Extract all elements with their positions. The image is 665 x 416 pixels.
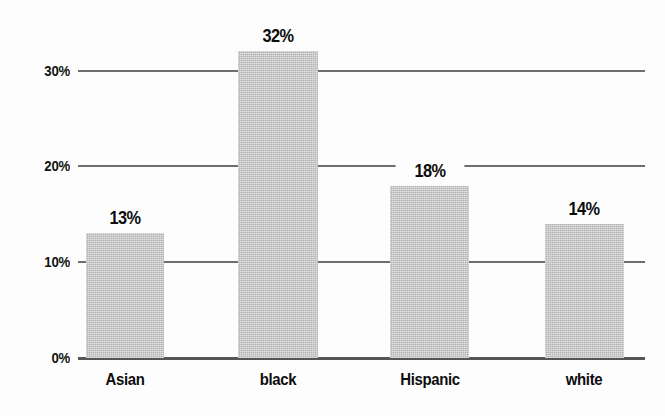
category-label-asian: Asian bbox=[84, 369, 167, 391]
bar-chart: 30% 20% 10% 0% 13% 32% 18% 14% Asian bla… bbox=[0, 0, 665, 416]
gridline-30 bbox=[78, 70, 645, 72]
y-tick-label-10: 10% bbox=[30, 253, 70, 270]
category-label-white: white bbox=[543, 369, 626, 391]
bar-black bbox=[238, 51, 318, 358]
y-tick-label-0: 0% bbox=[30, 349, 70, 366]
gridline-20 bbox=[78, 165, 645, 167]
bar-asian bbox=[86, 233, 164, 358]
bar-white bbox=[545, 224, 624, 358]
category-label-hispanic: Hispanic bbox=[389, 369, 472, 391]
value-label-asian: 13% bbox=[91, 207, 160, 229]
plot-area: 30% 20% 10% 0% 13% 32% 18% 14% Asian bla… bbox=[0, 0, 665, 416]
y-tick-label-20: 20% bbox=[30, 157, 70, 174]
bar-hispanic bbox=[390, 186, 469, 358]
value-label-hispanic: 18% bbox=[396, 160, 465, 182]
value-label-white: 14% bbox=[550, 198, 619, 220]
y-tick-label-30: 30% bbox=[30, 62, 70, 79]
category-label-black: black bbox=[237, 369, 320, 391]
value-label-black: 32% bbox=[244, 25, 313, 47]
